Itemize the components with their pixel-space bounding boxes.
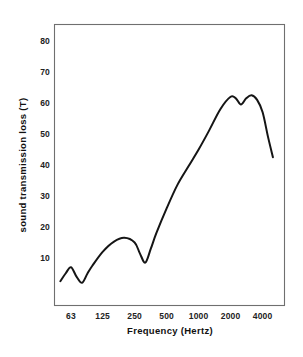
x-tick-label: 63: [66, 311, 76, 321]
y-tick-label: 80: [40, 36, 50, 46]
x-tick-label: 500: [159, 311, 174, 321]
sound-transmission-loss-chart: 1020304050607080 63125250500100020004000…: [0, 0, 303, 357]
y-tick-label: 20: [40, 222, 50, 232]
y-tick-label: 60: [40, 98, 50, 108]
x-tick-label: 4000: [253, 311, 273, 321]
y-tick-label: 70: [40, 67, 50, 77]
chart-figure: 1020304050607080 63125250500100020004000…: [0, 0, 303, 357]
plot-area-frame: [55, 25, 285, 306]
x-tick-label: 250: [127, 311, 142, 321]
y-tick-label: 50: [40, 129, 50, 139]
x-tick-label: 1000: [189, 311, 209, 321]
y-tick-label: 10: [40, 253, 50, 263]
y-tick-label: 30: [40, 191, 50, 201]
x-tick-label: 125: [95, 311, 110, 321]
y-tick-label: 40: [40, 160, 50, 170]
x-tick-label: 2000: [221, 311, 241, 321]
x-axis-title: Frequency (Hertz): [127, 325, 213, 336]
y-axis-title: sound transmission loss (T): [17, 98, 28, 233]
